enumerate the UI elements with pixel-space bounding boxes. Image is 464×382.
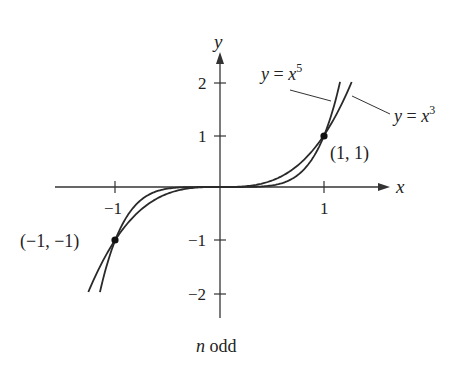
y-tick-label: 1 bbox=[198, 127, 207, 146]
caption-n-odd: n odd bbox=[196, 336, 237, 356]
point-minus1-minus1 bbox=[111, 236, 118, 243]
y-tick-label: 2 bbox=[198, 74, 207, 93]
point-1-1 bbox=[320, 132, 327, 139]
label-y-equals-x3: y = x3 bbox=[392, 103, 435, 126]
x-axis-label: x bbox=[395, 176, 405, 197]
y-axis-arrow-icon bbox=[216, 52, 224, 64]
y-tick-2: 2 bbox=[198, 74, 226, 93]
y-axis bbox=[216, 52, 224, 318]
x-axis-arrow-icon bbox=[378, 183, 390, 191]
leader-line-x3 bbox=[352, 96, 390, 114]
point-label-minus1-minus1: (−1, −1) bbox=[20, 231, 79, 252]
x-tick-label: 1 bbox=[320, 199, 329, 218]
x-tick-label: −1 bbox=[104, 199, 122, 218]
y-tick-label: −2 bbox=[188, 285, 206, 304]
power-function-plot: x y −1 1 2 1 −1 −2 bbox=[0, 0, 464, 382]
label-y-equals-x5: y = x5 bbox=[259, 61, 302, 84]
leader-line-x5 bbox=[290, 90, 331, 101]
point-label-1-1: (1, 1) bbox=[330, 143, 369, 164]
y-tick-label: −1 bbox=[188, 231, 206, 250]
y-axis-label: y bbox=[212, 31, 223, 52]
y-tick-1: 1 bbox=[198, 127, 226, 146]
